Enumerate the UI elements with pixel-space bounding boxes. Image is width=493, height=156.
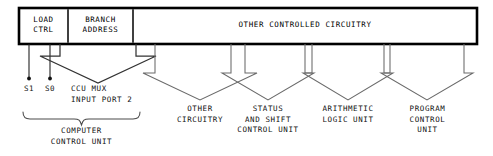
arrow-program-control-unit [381,44,473,100]
signal-label-s0: S0 [39,84,61,94]
section-label-other-controlled-circuitry: OTHER CONTROLLED CIRCUITRY [133,20,477,30]
signal-dot-s0 [48,77,52,81]
section-label-branch-address: BRANCH ADDRESS [68,15,133,35]
ccu-mux-arrow [40,44,156,83]
signal-dot-s1 [27,77,31,81]
arrow-status-and-shift-control-unit [222,44,314,100]
section-label-load-ctrl: LOAD CTRL [19,15,68,35]
unit-label-arithmetic-logic-unit: ARITHMETIC LOGIC UNIT [301,104,395,125]
unit-label-program-control-unit: PROGRAM CONTROL UNIT [384,104,471,136]
computer-control-unit-brace [23,112,140,125]
signal-label-s1: S1 [18,84,40,94]
diagram-canvas: LOAD CTRL BRANCH ADDRESS OTHER CONTROLLE… [0,0,493,156]
computer-control-unit-label: COMPUTER CONTROL UNIT [21,126,142,147]
arrow-arithmetic-logic-unit [303,44,393,100]
ccu-mux-label: CCU MUX INPUT PORT 2 [71,84,181,105]
